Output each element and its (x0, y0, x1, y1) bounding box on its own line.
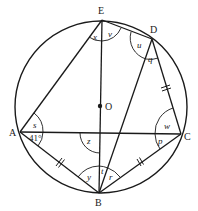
angle-x: x (92, 32, 97, 42)
angle-y: y (86, 172, 91, 182)
angle-u: u (137, 40, 142, 50)
segment-ea (20, 20, 102, 132)
angle-v: v (108, 29, 112, 39)
angle-t: t (101, 166, 104, 176)
label-b: B (95, 197, 102, 208)
label-e: E (98, 5, 104, 16)
angle-41: 41° (29, 133, 42, 143)
center-point-o (98, 104, 102, 108)
angle-s: s (33, 120, 37, 130)
angle-z: z (86, 136, 91, 146)
angle-w: w (164, 121, 170, 131)
segment-db (99, 39, 152, 193)
label-d: D (150, 24, 157, 35)
circle-geometry-diagram: E D A C B O x v u q s 41° z w p y t r (0, 0, 198, 211)
angle-r: r (109, 172, 113, 182)
angle-p: p (157, 136, 163, 146)
equal-marks (56, 85, 171, 168)
angle-q: q (148, 54, 153, 64)
label-a: A (9, 127, 17, 138)
label-c: C (184, 131, 191, 142)
label-o: O (105, 101, 112, 112)
